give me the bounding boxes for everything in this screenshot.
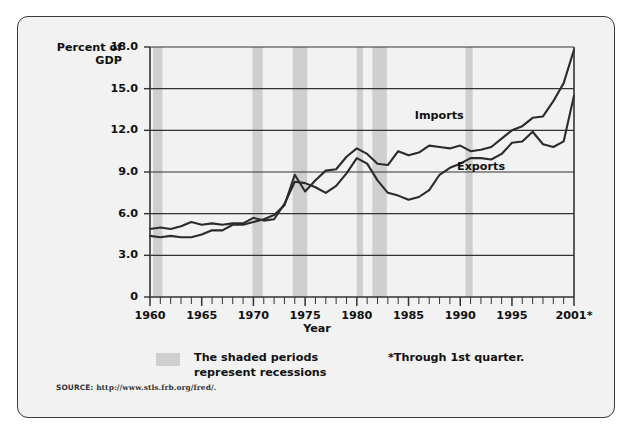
x-axis-title: Year xyxy=(18,322,616,335)
series-label-exports: Exports xyxy=(457,160,505,173)
y-tick-label-15: 15.0 xyxy=(98,82,138,95)
y-tick-label-18: 18.0 xyxy=(98,40,138,53)
recession-legend-text: The shaded periodsrepresent recessions xyxy=(194,351,326,381)
y-axis-title-line2: GDP xyxy=(95,54,122,67)
y-tick-label-6: 6.0 xyxy=(98,207,138,220)
recession-legend-line1: The shaded periods xyxy=(194,351,318,364)
chart-figure-frame: Percent ofGDP 03.06.09.012.015.018.0 196… xyxy=(17,16,615,418)
source-url[interactable]: http://www.stls.frb.org/fred/. xyxy=(96,383,216,392)
recession-legend-line2: represent recessions xyxy=(194,366,326,379)
source-prefix: SOURCE: xyxy=(56,383,93,392)
series-label-imports: Imports xyxy=(415,109,464,122)
recession-legend-swatch xyxy=(156,353,180,366)
footnote-text: *Through 1st quarter. xyxy=(388,351,524,364)
y-tick-label-9: 9.0 xyxy=(98,165,138,178)
y-tick-label-3: 3.0 xyxy=(98,248,138,261)
recession-legend: The shaded periodsrepresent recessions xyxy=(156,351,326,381)
source-line: SOURCE: http://www.stls.frb.org/fred/. xyxy=(56,383,216,392)
x-tick-label-1995: 1995 xyxy=(482,309,542,322)
y-tick-label-0: 0 xyxy=(98,290,138,303)
y-tick-label-12: 12.0 xyxy=(98,123,138,136)
x-tick-label-2001: 2001* xyxy=(544,309,604,322)
